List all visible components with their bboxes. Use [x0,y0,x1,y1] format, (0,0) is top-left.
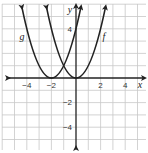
y-axis-label: y [67,4,73,15]
tick-x-neg2: −2 [47,81,57,90]
x-axis-label: x [137,79,143,90]
tick-y-4: 4 [68,25,73,34]
curve-label-g: g [20,31,25,42]
tick-x-neg4: −4 [22,81,32,90]
curve-label-f: f [103,31,107,42]
tick-x-2: 2 [98,81,103,90]
coordinate-plane: −4 −2 2 4 4 −2 −4 x y f g [0,0,148,153]
tick-x-4: 4 [123,81,128,90]
tick-y-neg4: −4 [63,123,73,132]
tick-y-neg2: −2 [63,98,73,107]
